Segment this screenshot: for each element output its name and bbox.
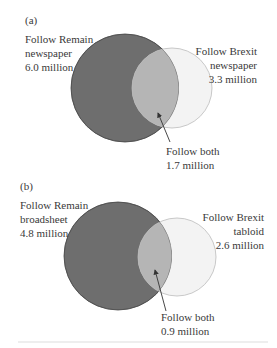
label-line: Follow both [161, 310, 214, 324]
label-line: newspaper [196, 58, 257, 72]
label-line: tabloid [203, 224, 264, 238]
brexit-label-b: Follow Brexit tabloid 2.6 million [203, 210, 264, 252]
label-value: 1.7 million [166, 158, 219, 172]
label-line: Follow Remain [25, 32, 93, 46]
brexit-label-a: Follow Brexit newspaper 3.3 million [196, 44, 257, 86]
remain-label-a: Follow Remain newspaper 6.0 million [25, 32, 93, 74]
remain-label-b: Follow Remain broadsheet 4.8 million [20, 198, 88, 240]
label-value: 3.3 million [196, 72, 257, 86]
label-line: Follow Remain [20, 198, 88, 212]
panel-tag-b: (b) [20, 180, 33, 192]
label-value: 6.0 million [25, 60, 93, 74]
overlap-label-a: Follow both 1.7 million [166, 144, 219, 172]
panel-tag-a: (a) [25, 14, 37, 26]
label-line: Follow both [166, 144, 219, 158]
cut-off-caption [18, 341, 268, 343]
label-value: 4.8 million [20, 226, 88, 240]
label-value: 0.9 million [161, 324, 214, 338]
label-line: newspaper [25, 46, 93, 60]
label-value: 2.6 million [203, 238, 264, 252]
label-line: Follow Brexit [196, 44, 257, 58]
label-line: Follow Brexit [203, 210, 264, 224]
label-line: broadsheet [20, 212, 88, 226]
overlap-label-b: Follow both 0.9 million [161, 310, 214, 338]
